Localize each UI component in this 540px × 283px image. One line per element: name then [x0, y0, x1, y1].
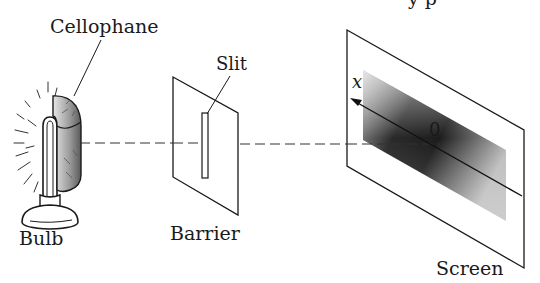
slit — [202, 113, 208, 178]
origin-label: 0 — [429, 119, 440, 140]
viewing-screen: x 0 — [347, 30, 524, 268]
slit-label: Slit — [216, 53, 248, 74]
bulb-base — [22, 205, 78, 229]
x-axis-label: x — [352, 71, 362, 92]
cellophane-label: Cellophane — [50, 15, 159, 37]
cellophane-label-group: Cellophane — [50, 15, 159, 96]
top-fragment-text: y p — [407, 0, 437, 9]
screen-label: Screen — [436, 257, 503, 279]
barrier — [173, 77, 238, 215]
bulb-tube — [43, 117, 57, 197]
top-text-fragment: y p — [407, 0, 437, 9]
barrier-label: Barrier — [170, 222, 241, 244]
cellophane-leader-line — [74, 40, 101, 96]
bulb-label: Bulb — [19, 227, 63, 249]
cellophane-filter — [53, 96, 81, 192]
slit-experiment-diagram: y p — [0, 0, 540, 283]
